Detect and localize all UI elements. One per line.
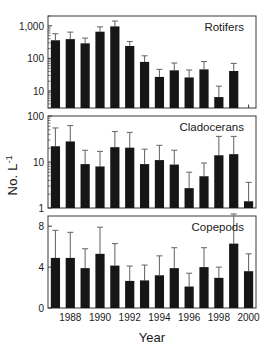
bar	[185, 77, 194, 108]
y-tick-label: 1	[38, 203, 44, 214]
bar-group	[214, 86, 223, 108]
bar-group	[125, 266, 134, 308]
x-tick-label: 1992	[119, 312, 142, 323]
y-tick-label: 10	[33, 157, 45, 168]
panel-top: 101001,000Rotifers	[19, 16, 256, 108]
bar	[125, 46, 134, 108]
bar-group	[81, 150, 90, 208]
bar	[51, 146, 60, 208]
bar	[140, 164, 149, 208]
bar	[214, 278, 223, 308]
bar	[81, 268, 90, 308]
bar	[199, 176, 208, 208]
bar-group	[185, 273, 194, 308]
bar	[155, 77, 164, 108]
bar	[155, 275, 164, 308]
bar	[125, 281, 134, 308]
bar	[110, 266, 119, 308]
bar	[66, 39, 75, 108]
bar-group	[170, 63, 179, 108]
bar	[244, 201, 253, 208]
x-tick-label: 1990	[89, 312, 112, 323]
y-axis-label: No. L-1	[0, 120, 24, 230]
bar	[244, 271, 253, 308]
bar-group	[185, 70, 194, 108]
x-tick-label: 1994	[148, 312, 171, 323]
bar-group	[155, 256, 164, 308]
bar-group	[51, 230, 60, 308]
bar	[199, 69, 208, 108]
plot-canvas: 101001,000Rotifers110100Cladocerans04819…	[0, 0, 268, 355]
bar	[199, 267, 208, 308]
bar-group	[155, 145, 164, 208]
bar	[214, 97, 223, 108]
bar-group	[51, 128, 60, 208]
bar	[95, 254, 104, 308]
bar-group	[214, 136, 223, 208]
bar-group	[66, 126, 75, 208]
x-tick-label: 1998	[208, 312, 231, 323]
bar	[66, 141, 75, 208]
bar-group	[244, 182, 253, 208]
bar	[66, 258, 75, 308]
panel-title-middle: Cladocerans	[179, 121, 244, 133]
bar	[51, 258, 60, 308]
y-axis-label-text: No. L	[5, 163, 20, 195]
bar	[229, 71, 238, 108]
bar-group	[140, 56, 149, 108]
bar-group	[214, 267, 223, 308]
bar-group	[155, 69, 164, 108]
bar	[155, 160, 164, 208]
bar-group	[229, 63, 238, 108]
bar	[81, 43, 90, 108]
bar-group	[199, 248, 208, 308]
bar-group	[51, 34, 60, 108]
panel-middle: 110100Cladocerans	[27, 111, 256, 214]
panel-title-bottom: Copepods	[192, 221, 245, 233]
bar	[185, 287, 194, 308]
bar-group	[95, 151, 104, 208]
bar-group	[125, 132, 134, 208]
bar	[140, 62, 149, 108]
bar	[95, 166, 104, 208]
bar-group	[95, 27, 104, 108]
x-tick-label: 2000	[237, 312, 260, 323]
bar	[125, 148, 134, 208]
x-axis-label: Year	[48, 330, 256, 345]
bar	[95, 32, 104, 108]
bar-group	[110, 244, 119, 308]
bar	[81, 164, 90, 208]
bar-group	[110, 132, 119, 208]
bar-group	[140, 265, 149, 308]
bar-group	[66, 32, 75, 108]
bar-group	[81, 249, 90, 308]
panel-bottom: 0481988199019921994199619982000Copepods	[38, 214, 260, 323]
bar-group	[199, 62, 208, 108]
bar-group	[66, 232, 75, 308]
bar	[214, 155, 223, 208]
bar-group	[244, 254, 253, 308]
bar	[110, 26, 119, 108]
panel-title-top: Rotifers	[204, 21, 244, 33]
bar	[170, 165, 179, 208]
bar-group	[170, 248, 179, 308]
bar	[229, 154, 238, 208]
bar	[170, 70, 179, 108]
bar-group	[140, 149, 149, 208]
bar	[185, 188, 194, 208]
bar-group	[95, 227, 104, 308]
bar-group	[110, 21, 119, 108]
bar	[51, 40, 60, 108]
bar-group	[185, 172, 194, 208]
bar-group	[81, 38, 90, 108]
bar-group	[125, 41, 134, 108]
bar	[170, 268, 179, 308]
y-axis-label-exponent: -1	[4, 155, 14, 163]
y-tick-label: 10	[33, 86, 45, 97]
bar-group	[229, 136, 238, 208]
y-tick-label: 0	[38, 303, 44, 314]
x-tick-label: 1988	[59, 312, 82, 323]
bar-group	[170, 150, 179, 208]
bar	[140, 280, 149, 308]
y-tick-label: 100	[27, 111, 44, 122]
